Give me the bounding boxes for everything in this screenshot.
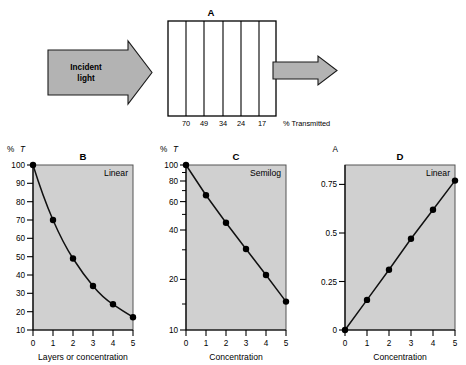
panel-d-point-1 bbox=[364, 297, 370, 303]
panel-d-point-2 bbox=[386, 267, 392, 273]
panel-b-x-ticklabels: 0 1 2 3 4 5 bbox=[31, 339, 136, 348]
panel-c-xlabel: Concentration bbox=[209, 352, 263, 362]
panel-d-ytick-0: 0 bbox=[332, 326, 337, 335]
panel-c-ytick-40: 40 bbox=[169, 226, 179, 235]
panel-b-ytick-80: 80 bbox=[16, 198, 26, 207]
panel-c-point-2 bbox=[223, 220, 229, 226]
panel-b-xtick-0: 0 bbox=[31, 339, 36, 348]
figure-root: A Incident light 70 49 34 24 bbox=[0, 0, 466, 365]
transmitted-arrow-shape bbox=[273, 56, 337, 85]
panel-d-label: D bbox=[397, 151, 404, 162]
panel-c-xtick-3: 3 bbox=[244, 339, 249, 348]
panel-b-xtick-2: 2 bbox=[71, 339, 76, 348]
panel-b-ytick-70: 70 bbox=[16, 216, 26, 225]
incident-arrow-shape bbox=[48, 41, 152, 104]
panel-c-ylabel-prefix: % bbox=[160, 145, 167, 154]
panel-b-y-ticklabels: 100 90 80 70 60 50 40 30 20 10 bbox=[11, 161, 25, 335]
panel-d-xtick-1: 1 bbox=[365, 339, 370, 348]
panel-b-ylabel-symbol: T bbox=[20, 145, 26, 154]
panel-c-ytick-80: 80 bbox=[169, 177, 179, 186]
panel-b-label: B bbox=[80, 151, 87, 162]
panel-c-point-4 bbox=[263, 272, 269, 278]
panel-b-xtick-5: 5 bbox=[131, 339, 136, 348]
panel-c-point-3 bbox=[243, 246, 249, 252]
panel-d-x-ticklabels: 0 1 2 3 4 5 bbox=[343, 339, 458, 348]
transmitted-value-3: 34 bbox=[219, 119, 227, 128]
panel-c-y-ticklabels: 100 80 60 40 20 10 bbox=[164, 161, 178, 335]
panel-d-ytick-05: 0.5 bbox=[326, 229, 338, 238]
panel-d-x-ticks bbox=[345, 330, 455, 336]
panel-d-xtick-5: 5 bbox=[453, 339, 458, 348]
panel-b-point-2 bbox=[70, 255, 76, 261]
panel-d-xtick-0: 0 bbox=[343, 339, 348, 348]
panel-b-point-5 bbox=[130, 314, 136, 320]
incident-arrow-label-line2: light bbox=[77, 74, 95, 83]
transmitted-caption: % Transmitted bbox=[283, 119, 330, 128]
panel-c-scale-note: Semilog bbox=[250, 168, 281, 178]
panel-b-x-ticks bbox=[33, 330, 133, 336]
panel-c-ytick-10: 10 bbox=[169, 326, 179, 335]
panel-c-group: C Semilog % T bbox=[160, 145, 289, 362]
panel-c-ytick-100: 100 bbox=[164, 161, 178, 170]
panel-b-xtick-3: 3 bbox=[91, 339, 96, 348]
panel-b-plot-area bbox=[33, 165, 133, 330]
panel-c-xtick-1: 1 bbox=[204, 339, 209, 348]
panel-c-point-1 bbox=[203, 192, 209, 198]
panel-b-group: B Linear % T 100 90 80 bbox=[7, 145, 136, 362]
panel-d-point-5 bbox=[452, 177, 458, 183]
panel-b-point-1 bbox=[50, 217, 56, 223]
panel-c-y-major-ticks bbox=[180, 165, 186, 330]
panel-d-xtick-4: 4 bbox=[431, 339, 436, 348]
panel-d-xtick-2: 2 bbox=[387, 339, 392, 348]
panel-c-xtick-5: 5 bbox=[284, 339, 289, 348]
panel-b-xtick-4: 4 bbox=[111, 339, 116, 348]
transmitted-values-group: 70 49 34 24 17 % Transmitted bbox=[182, 119, 330, 128]
panel-c-point-0 bbox=[183, 162, 189, 168]
panel-b-ytick-60: 60 bbox=[16, 234, 26, 243]
panel-c-ylabel-symbol: T bbox=[173, 145, 179, 154]
panel-b-scale-note: Linear bbox=[104, 168, 128, 178]
panel-d-y-ticklabels: 0.75 0.5 0.25 0 bbox=[321, 180, 337, 335]
transmitted-value-4: 24 bbox=[237, 119, 245, 128]
panel-d-point-3 bbox=[408, 236, 414, 242]
transmitted-light-arrow bbox=[273, 56, 337, 85]
panel-d-point-4 bbox=[430, 207, 436, 213]
transmitted-value-5: 17 bbox=[258, 119, 266, 128]
panel-d-ytick-075: 0.75 bbox=[321, 180, 337, 189]
panel-c-point-5 bbox=[283, 298, 289, 304]
panel-d-y-ticks bbox=[339, 184, 345, 330]
panel-b-point-4 bbox=[110, 301, 116, 307]
panel-c-ytick-60: 60 bbox=[169, 198, 179, 207]
transmitted-value-1: 70 bbox=[182, 119, 190, 128]
panel-c-xtick-4: 4 bbox=[264, 339, 269, 348]
panel-d-xlabel: Concentration bbox=[373, 352, 427, 362]
panel-d-scale-note: Linear bbox=[426, 168, 450, 178]
figure-svg: A Incident light 70 49 34 24 bbox=[0, 0, 466, 365]
panel-d-ytick-025: 0.25 bbox=[321, 278, 337, 287]
panel-c-x-ticklabels: 0 1 2 3 4 5 bbox=[184, 339, 289, 348]
panel-c-ytick-20: 20 bbox=[169, 275, 179, 284]
panel-d-ylabel-symbol: A bbox=[333, 145, 339, 154]
incident-arrow-label-line1: Incident bbox=[70, 63, 102, 72]
sample-box bbox=[168, 21, 276, 116]
panel-b-ytick-40: 40 bbox=[16, 271, 26, 280]
panel-c-label: C bbox=[233, 151, 240, 162]
panel-b-xlabel: Layers or concentration bbox=[38, 352, 128, 362]
panel-b-ytick-30: 30 bbox=[16, 289, 26, 298]
panel-c-xtick-0: 0 bbox=[184, 339, 189, 348]
sample-box-outline bbox=[168, 21, 276, 116]
panel-c-xtick-2: 2 bbox=[224, 339, 229, 348]
panel-b-point-3 bbox=[90, 283, 96, 289]
panel-b-ytick-90: 90 bbox=[16, 179, 26, 188]
panel-d-plot-area bbox=[345, 165, 455, 330]
incident-light-arrow: Incident light bbox=[48, 41, 152, 104]
panel-d-point-0 bbox=[342, 327, 348, 333]
panel-b-ytick-50: 50 bbox=[16, 253, 26, 262]
panel-c-plot-area bbox=[186, 165, 286, 330]
panel-b-y-ticks bbox=[27, 165, 33, 330]
panel-b-ylabel-prefix: % bbox=[7, 145, 14, 154]
panel-a-label: A bbox=[208, 7, 215, 18]
panel-b-point-0 bbox=[30, 162, 36, 168]
panel-b-ytick-20: 20 bbox=[16, 308, 26, 317]
panel-b-xtick-1: 1 bbox=[51, 339, 56, 348]
